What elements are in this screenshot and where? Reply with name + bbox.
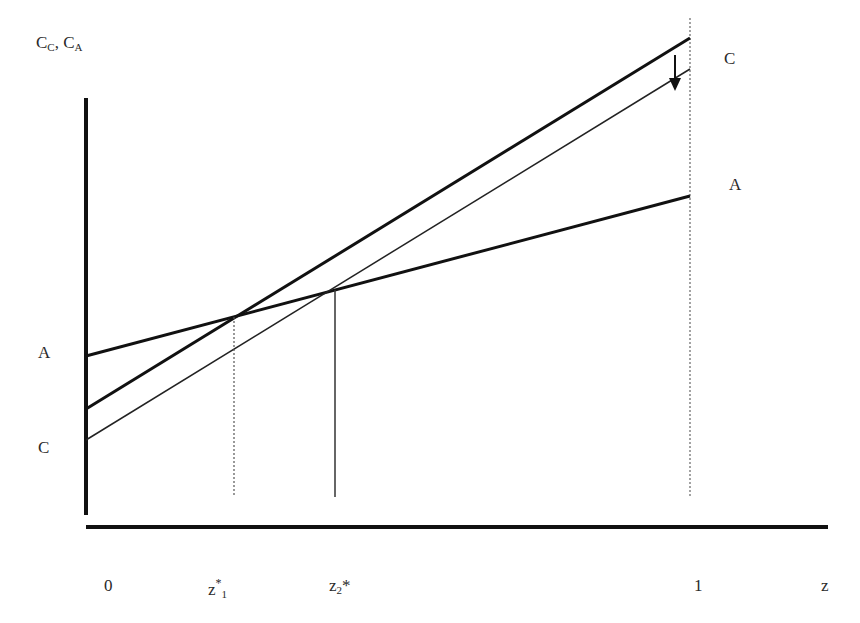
left-label-C: C — [38, 438, 49, 458]
z1-sub: 1 — [222, 588, 228, 600]
z1-base: z — [208, 580, 216, 599]
y-title-c: C — [36, 33, 47, 52]
diagram-canvas — [0, 0, 860, 623]
z2-base: z — [329, 576, 337, 595]
x-tick-0: 0 — [104, 576, 113, 596]
line-A — [86, 196, 690, 356]
y-axis-title: CC, CA — [36, 33, 82, 53]
x-tick-z1-star: z*1 — [208, 576, 227, 600]
line-C-shifted — [86, 69, 690, 440]
x-axis-title: z — [821, 576, 829, 596]
x-tick-1: 1 — [694, 576, 703, 596]
y-title-sub-a: A — [75, 41, 83, 53]
z2-star: * — [342, 576, 351, 595]
y-title-sep: , C — [55, 33, 75, 52]
x-tick-z2-star: z2* — [329, 576, 351, 596]
line-C-original — [86, 38, 690, 409]
left-label-A: A — [38, 343, 50, 363]
y-title-sub-c: C — [47, 41, 54, 53]
right-label-C: C — [724, 49, 735, 69]
right-label-A: A — [729, 175, 741, 195]
down-arrow-icon — [669, 55, 681, 91]
